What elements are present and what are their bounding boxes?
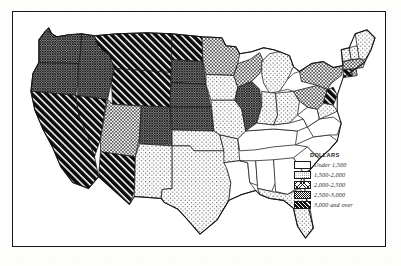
state-NY <box>299 62 343 90</box>
state-AZ <box>99 152 136 205</box>
legend-label-under-1500: Under 1,500 <box>314 161 346 169</box>
legend-swatch-2000-2500 <box>294 181 311 189</box>
state-UT <box>101 99 142 157</box>
legend-entry-2000-2500: 2,000-2,500 <box>294 180 382 189</box>
legend-label-3000-and-over: 3,000 and over <box>314 201 353 209</box>
state-IA <box>206 74 238 100</box>
state-OH <box>274 91 300 125</box>
state-KS <box>170 107 214 131</box>
state-WA <box>39 28 82 64</box>
legend-swatch-under-1500 <box>294 161 311 169</box>
state-AL <box>256 160 276 192</box>
legend-swatch-1500-2000 <box>294 171 311 179</box>
state-SD <box>171 60 206 85</box>
map-legend: DOLLARS Under 1,500 1,500-2,000 2,000-2,… <box>294 152 382 212</box>
state-MN <box>202 37 240 76</box>
legend-entry-1500-2000: 1,500-2,000 <box>294 170 382 179</box>
legend-entry-3000-and-over: 3,000 and over <box>294 200 382 209</box>
state-ND <box>171 34 203 62</box>
state-CO <box>139 106 172 146</box>
legend-label-2000-2500: 2,000-2,500 <box>314 181 345 189</box>
legend-swatch-3000-and-over <box>294 201 311 209</box>
state-WY <box>111 69 171 108</box>
legend-swatch-2500-3000 <box>294 191 311 199</box>
legend-label-2500-3000: 2,500-3,000 <box>314 191 345 199</box>
state-NE <box>170 82 211 107</box>
legend-title: DOLLARS <box>310 152 382 159</box>
state-MI <box>262 52 294 94</box>
legend-entry-under-1500: Under 1,500 <box>294 161 382 170</box>
state-TN <box>238 129 298 151</box>
state-OR <box>31 63 79 96</box>
legend-entry-2500-3000: 2,500-3,000 <box>294 190 382 199</box>
legend-label-1500-2000: 1,500-2,000 <box>314 171 345 179</box>
figure-page: DOLLARS Under 1,500 1,500-2,000 2,000-2,… <box>0 0 401 266</box>
